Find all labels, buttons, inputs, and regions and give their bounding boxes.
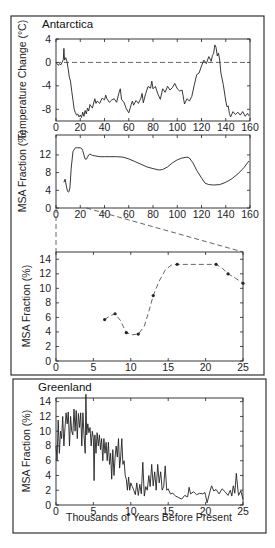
x-tick-label: 80 [147,121,159,133]
x-tick-label: 0 [53,505,59,517]
y-axis-label: MSA Fraction (%) [20,410,32,492]
data-point-marker [113,312,116,315]
x-tick-label: 140 [217,208,235,220]
data-point-marker [226,272,229,275]
y-axis-label: MSA Fraction (%) [16,130,28,212]
x-tick-label: 60 [123,121,135,133]
x-tick-label: 140 [217,121,235,133]
data-series-line [56,45,249,118]
y-tick-label: 8 [45,166,51,178]
y-tick-label: 6 [45,454,51,466]
y-tick-label: 2 [45,340,51,352]
y-tick-label: 2 [45,484,51,496]
plot-frame [56,135,250,208]
y-tick-label: -4 [42,79,51,91]
x-tick-label: 25 [237,361,249,373]
y-tick-label: 12 [39,267,51,279]
plot-frame [56,398,243,505]
x-tick-label: 160 [241,208,259,220]
greenland-x-axis-label: Thousands of Years Before Present [66,511,232,523]
x-tick-label: 40 [99,121,111,133]
y-tick-label: 4 [45,184,51,196]
figure-canvas: Antarctica Greenland 0204060801001201401… [0,0,275,548]
y-tick-label: 10 [39,282,51,294]
plot-frame [56,39,250,121]
y-tick-label: 0 [45,499,51,511]
data-point-marker [176,263,179,266]
y-tick-label: 14 [39,253,51,265]
x-tick-label: 0 [53,361,59,373]
antarctica-title: Antarctica [42,18,94,30]
data-series-line [105,264,243,334]
x-tick-label: 15 [162,361,174,373]
data-point-marker [214,263,217,266]
x-tick-label: 10 [125,361,137,373]
y-tick-label: 4 [45,33,51,45]
data-point-marker [103,318,106,321]
x-tick-label: 25 [237,505,249,517]
y-tick-label: 14 [39,395,51,407]
greenland-msa-plot: 051015202514121086420MSA Fraction (%) [20,394,249,517]
y-tick-label: 0 [45,355,51,367]
y-axis-label: Temperature Change (°C) [16,20,28,140]
y-tick-label: 4 [45,469,51,481]
antarctica-msa-25k-plot: 051015202514121086420MSA Fraction (%) [20,252,249,373]
x-tick-label: 5 [90,361,96,373]
y-tick-label: 8 [45,439,51,451]
x-tick-label: 60 [123,208,135,220]
y-tick-label: 12 [39,410,51,422]
y-tick-label: 6 [45,311,51,323]
x-tick-label: 20 [200,361,212,373]
antarctica-msa-160k-plot: 02040608010012014016012840MSA Fraction (… [16,130,259,220]
data-series-line [56,394,243,503]
x-tick-label: 20 [74,121,86,133]
y-tick-label: 12 [39,148,51,160]
data-point-marker [241,282,244,285]
plot-frame [56,252,243,361]
data-point-marker [152,294,155,297]
x-tick-label: 80 [147,208,159,220]
x-tick-label: 20 [74,208,86,220]
x-tick-label: 120 [193,121,211,133]
y-tick-label: 4 [45,325,51,337]
data-point-marker [125,331,128,334]
x-tick-label: 100 [168,208,186,220]
y-tick-label: 0 [45,56,51,68]
x-tick-label: 120 [193,208,211,220]
y-axis-label: MSA Fraction (%) [20,265,32,347]
x-tick-label: 100 [168,121,186,133]
antarctica-temperature-plot: 02040608010012014016040-4-8Temperature C… [16,20,259,140]
greenland-title: Greenland [38,381,92,393]
x-tick-label: 0 [53,121,59,133]
data-series-line [64,148,249,192]
y-tick-label: 0 [45,202,51,214]
y-tick-label: -8 [42,103,51,115]
data-point-marker [137,333,140,336]
x-tick-label: 40 [99,208,111,220]
y-tick-label: 10 [39,425,51,437]
x-tick-label: 160 [241,121,259,133]
y-tick-label: 8 [45,296,51,308]
